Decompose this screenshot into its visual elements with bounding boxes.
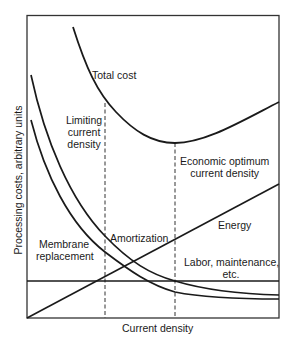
optimum-label-line1: Economic optimum [180,155,269,167]
amortization-label: Amortization [110,232,168,244]
limiting-label-line1: Limiting [64,114,104,126]
limiting-label-line2: current [64,126,104,138]
limiting-label-line3: density [64,138,104,150]
x-axis-label: Current density [122,322,193,334]
membrane-replacement-label: Membrane replacement [36,238,92,262]
total-cost-label: Total cost [92,69,136,81]
energy-label: Energy [218,219,251,231]
labor-maintenance-label: Labor, maintenance, etc. [184,256,278,280]
economic-optimum-label: Economic optimum current density [180,155,269,179]
labor-label-line1: Labor, maintenance, [184,256,278,268]
membrane-label-line2: replacement [36,250,92,262]
y-axis-label: Processing costs, arbitrary units [12,106,24,255]
labor-label-line2: etc. [184,268,278,280]
membrane-label-line1: Membrane [36,238,92,250]
limiting-current-density-label: Limiting current density [64,114,104,150]
optimum-label-line2: current density [180,167,269,179]
